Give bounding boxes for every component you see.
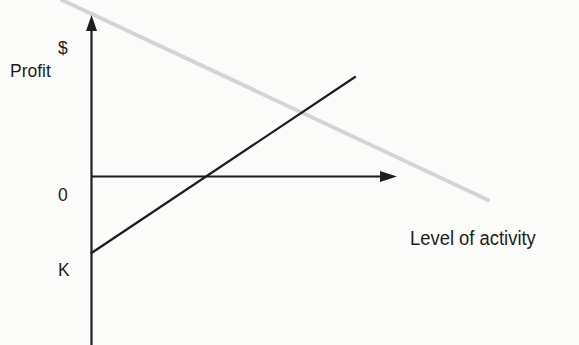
profit-line — [92, 77, 356, 253]
y-tick-zero-label: 0 — [58, 185, 68, 204]
x-axis-arrow-icon — [380, 171, 397, 182]
y-tick-k-label: K — [58, 260, 70, 279]
y-axis-title: Profit — [10, 61, 51, 80]
x-axis-title: Level of activity — [410, 228, 536, 248]
scan-streak — [62, 0, 488, 200]
y-axis-currency-label: $ — [58, 38, 68, 57]
profit-volume-diagram — [0, 0, 579, 345]
